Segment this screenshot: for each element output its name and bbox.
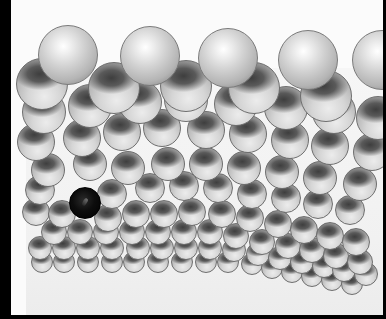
lattice-sphere xyxy=(151,147,185,181)
lattice-sphere xyxy=(227,151,261,185)
lattice-sphere xyxy=(342,228,370,256)
lattice-sphere xyxy=(122,200,150,228)
lattice-sphere xyxy=(178,198,206,226)
lattice-sphere xyxy=(264,210,292,238)
top-sphere xyxy=(198,28,258,88)
defect-sphere xyxy=(69,187,101,219)
top-sphere xyxy=(38,25,98,85)
photo-frame xyxy=(0,0,386,319)
lattice-sphere xyxy=(316,222,344,250)
lattice-sphere xyxy=(189,147,223,181)
lattice-sphere xyxy=(150,200,178,228)
lattice-sphere xyxy=(208,200,236,228)
top-sphere xyxy=(120,26,180,86)
top-sphere xyxy=(278,30,338,90)
lattice-sphere xyxy=(290,216,318,244)
lattice-photo xyxy=(11,0,383,315)
lattice-sphere xyxy=(343,167,377,201)
lattice-sphere xyxy=(111,151,145,185)
lattice-sphere xyxy=(303,161,337,195)
lattice-sphere xyxy=(265,155,299,189)
